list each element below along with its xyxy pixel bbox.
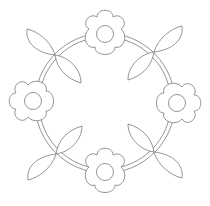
flower-bottom: [85, 148, 125, 192]
leaf-pair-bottom-right: [128, 124, 182, 178]
wreath-drawing: [0, 0, 210, 206]
leaf-pair-top-right: [128, 26, 182, 80]
flower-top: [85, 10, 125, 54]
flower-left: [9, 81, 53, 121]
leaf-pair-bottom-left: [28, 126, 82, 180]
flower-right: [157, 83, 201, 123]
leaf-pair-top-left: [27, 29, 81, 83]
